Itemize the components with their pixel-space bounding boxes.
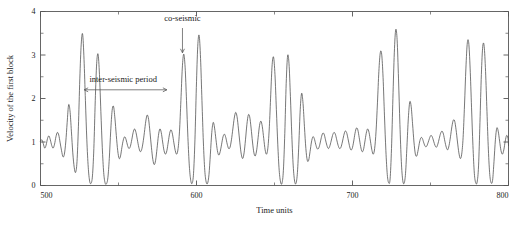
y-tick-label: 1 [32,138,36,147]
chart-annotations: co-seismicinter-seismic period [84,13,201,92]
velocity-curve [41,29,509,184]
x-tick-label: 600 [191,191,203,200]
x-tick-label: 700 [347,191,359,200]
y-tick-label: 2 [32,94,36,103]
y-axis-label: Velocity of the first block [5,54,15,142]
y-tick-label: 4 [32,7,36,16]
annotation-label-inter-seismic-period: inter-seismic period [89,74,157,84]
annotation-co-seismic: co-seismic [164,13,201,53]
chart-canvas: 01234 500600700800 co-seismicinter-seism… [0,0,521,225]
plot-frame [41,12,509,186]
annotation-inter-seismic-period: inter-seismic period [84,74,167,92]
y-axis-ticks [41,12,509,186]
annotation-label-co-seismic: co-seismic [164,13,201,23]
x-tick-label: 800 [497,191,509,200]
y-tick-label: 0 [32,181,36,190]
velocity-time-series-figure: 01234 500600700800 co-seismicinter-seism… [0,0,521,225]
x-axis-ticks [41,12,509,186]
x-tick-label: 500 [41,191,53,200]
y-axis-tick-labels: 01234 [32,7,36,190]
x-axis-tick-labels: 500600700800 [41,191,509,200]
y-tick-label: 3 [32,51,36,60]
plot-frame-box [41,12,509,186]
x-axis-label: Time units [256,205,292,215]
data-series-group [41,29,509,184]
